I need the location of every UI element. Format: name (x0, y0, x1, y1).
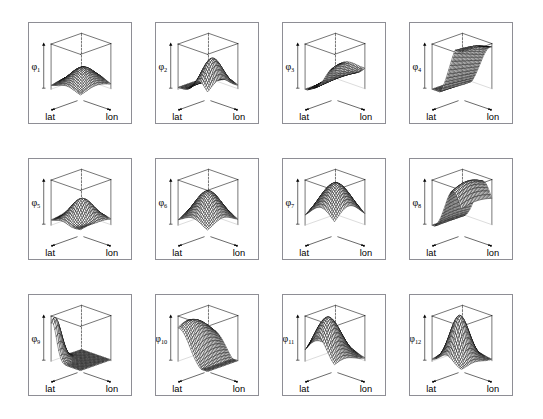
lon-axis-arrow (337, 373, 363, 382)
phi-axis-label: φ8 (412, 197, 421, 209)
panel-phi-7: latlonφ7 (282, 158, 386, 260)
lat-axis-label: lat (299, 384, 309, 394)
panel-phi-1: latlonφ1 (28, 22, 132, 124)
lat-axis-label: lat (426, 248, 436, 258)
lon-axis-label: lon (487, 248, 499, 258)
phi-axis-label: φ7 (285, 197, 294, 209)
phi-axis-label: φ10 (156, 333, 167, 345)
lon-axis-arrow (464, 101, 490, 110)
lat-axis-arrow (179, 101, 204, 110)
surface-mesh (178, 58, 238, 92)
surface-mesh (178, 191, 238, 230)
lat-axis-arrow (179, 237, 204, 246)
phi-axis-label: φ3 (285, 61, 294, 73)
lon-axis-label: lon (233, 248, 245, 258)
surface-mesh (305, 183, 365, 222)
phi-axis-label: φ2 (158, 61, 167, 73)
lat-axis-arrow (306, 101, 331, 110)
lat-axis-arrow (433, 373, 458, 382)
lat-axis-label: lat (299, 248, 309, 258)
lon-axis-label: lon (106, 248, 118, 258)
lon-axis-arrow (83, 237, 109, 246)
lat-axis-arrow (306, 237, 331, 246)
lat-axis-label: lat (426, 384, 436, 394)
lat-axis-arrow (52, 373, 77, 382)
surface-mesh (432, 315, 492, 369)
surface-mesh (178, 319, 238, 371)
surface-mesh (51, 198, 111, 229)
bounding-box (305, 33, 365, 89)
lon-axis-label: lon (360, 248, 372, 258)
lon-axis-label: lon (106, 112, 118, 122)
lat-axis-label: lat (426, 112, 436, 122)
lon-axis-label: lon (233, 112, 245, 122)
lat-axis-label: lat (172, 248, 182, 258)
lon-axis-arrow (83, 373, 109, 382)
lon-axis-arrow (464, 237, 490, 246)
panel-phi-10: latlonφ10 (155, 294, 259, 396)
lat-axis-label: lat (172, 384, 182, 394)
lon-axis-label: lon (360, 112, 372, 122)
lon-axis-label: lon (487, 112, 499, 122)
panel-phi-8: latlonφ8 (409, 158, 513, 260)
surface-mesh (305, 317, 365, 365)
surface-mesh (432, 180, 492, 226)
lon-axis-arrow (337, 101, 363, 110)
panel-phi-4: latlonφ4 (409, 22, 513, 124)
phi-axis-label: φ12 (410, 333, 421, 345)
panel-phi-5: latlonφ5 (28, 158, 132, 260)
lon-axis-arrow (83, 101, 109, 110)
lon-axis-label: lon (106, 384, 118, 394)
lon-axis-arrow (210, 237, 236, 246)
lat-axis-label: lat (172, 112, 182, 122)
panel-phi-12: latlonφ12 (409, 294, 513, 396)
lon-axis-label: lon (233, 384, 245, 394)
surface-mesh (51, 317, 111, 371)
lat-axis-arrow (433, 237, 458, 246)
lon-axis-label: lon (360, 384, 372, 394)
surface-mesh (51, 67, 111, 95)
panel-phi-2: latlonφ2 (155, 22, 259, 124)
panel-phi-11: latlonφ11 (282, 294, 386, 396)
lat-axis-label: lat (45, 384, 55, 394)
lat-axis-arrow (179, 373, 204, 382)
surface-mesh (432, 46, 492, 92)
phi-axis-label: φ11 (283, 333, 294, 345)
phi-axis-label: φ6 (158, 197, 167, 209)
lon-axis-arrow (210, 373, 236, 382)
lat-axis-arrow (433, 101, 458, 110)
lat-axis-label: lat (45, 112, 55, 122)
lat-axis-label: lat (299, 112, 309, 122)
phi-axis-label: φ4 (412, 61, 422, 73)
lon-axis-arrow (210, 101, 236, 110)
lat-axis-label: lat (45, 248, 55, 258)
lat-axis-arrow (306, 373, 331, 382)
panel-phi-3: latlonφ3 (282, 22, 386, 124)
lat-axis-arrow (52, 237, 77, 246)
phi-axis-label: φ5 (31, 197, 40, 209)
lon-axis-arrow (464, 373, 490, 382)
panel-grid: latlonφ1latlonφ2latlonφ3latlonφ4latlonφ5… (28, 22, 513, 397)
panel-phi-6: latlonφ6 (155, 158, 259, 260)
lon-axis-arrow (337, 237, 363, 246)
phi-axis-label: φ9 (31, 333, 40, 345)
lon-axis-label: lon (487, 384, 499, 394)
phi-axis-label: φ1 (31, 61, 40, 73)
lat-axis-arrow (52, 101, 77, 110)
panel-phi-9: latlonφ9 (28, 294, 132, 396)
